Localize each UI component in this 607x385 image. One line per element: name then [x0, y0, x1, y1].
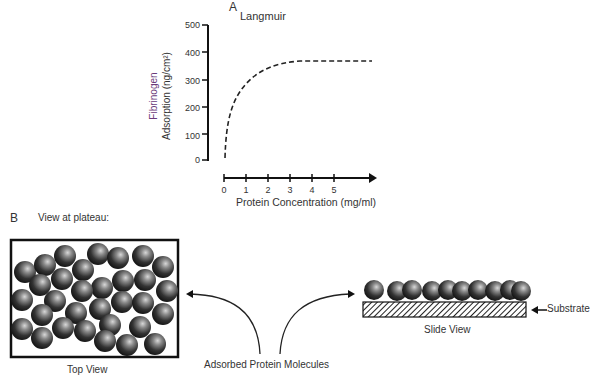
- slide-view: [363, 280, 531, 317]
- substrate-bar: [363, 302, 526, 317]
- langmuir-curve: [225, 61, 372, 158]
- figure-graphics: [0, 0, 607, 385]
- top-view-box: [11, 240, 178, 357]
- molecule-arrows: [186, 290, 355, 354]
- x-axis: [224, 173, 377, 183]
- substrate-arrow: [531, 306, 547, 314]
- y-axis: [202, 25, 208, 161]
